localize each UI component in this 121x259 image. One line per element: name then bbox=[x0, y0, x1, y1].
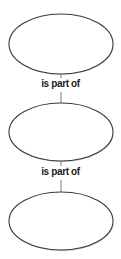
edge-label-text: is part of bbox=[39, 78, 82, 89]
edge-label-text: is part of bbox=[39, 166, 82, 177]
node-top[interactable] bbox=[9, 14, 113, 74]
edge-label-middle-bottom: is part of bbox=[0, 166, 121, 177]
diagram-canvas: is part of is part of bbox=[0, 0, 121, 259]
node-top-ellipse[interactable] bbox=[9, 14, 113, 74]
node-middle[interactable] bbox=[9, 103, 113, 161]
node-bottom[interactable] bbox=[9, 192, 113, 250]
node-bottom-ellipse[interactable] bbox=[9, 192, 113, 250]
node-middle-ellipse[interactable] bbox=[9, 103, 113, 161]
diagram-svg bbox=[0, 0, 121, 259]
edge-label-top-middle: is part of bbox=[0, 78, 121, 89]
